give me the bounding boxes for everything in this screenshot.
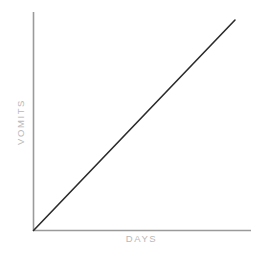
- data-line-vomits-over-days: [34, 20, 236, 231]
- x-axis-label: DAYS: [0, 233, 261, 244]
- chart-container: DAYS VOMITS: [0, 0, 261, 262]
- plot-area: [0, 0, 261, 262]
